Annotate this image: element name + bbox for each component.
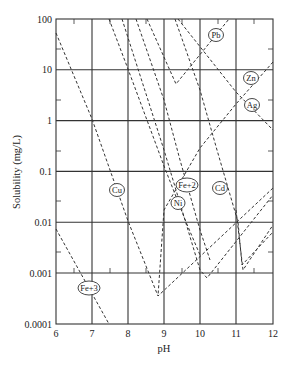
svg-text:100: 100: [37, 14, 52, 25]
label-cd: Cd: [213, 182, 228, 195]
label-pb: Pb: [209, 29, 224, 42]
svg-text:9: 9: [162, 328, 167, 339]
curve-ag: [178, 19, 273, 130]
svg-text:Ag: Ag: [247, 100, 258, 110]
svg-text:Cu: Cu: [112, 185, 123, 195]
label-zn: Zn: [244, 72, 259, 85]
svg-text:Ni: Ni: [174, 198, 183, 208]
svg-text:6: 6: [54, 328, 59, 339]
x-tick-labels: 6 7 8 9 10 11 12: [54, 328, 279, 339]
svg-text:8: 8: [126, 328, 131, 339]
grid: [56, 19, 273, 324]
svg-text:10: 10: [195, 328, 205, 339]
y-axis-title: Solubility (mg/L): [11, 135, 23, 209]
svg-text:1: 1: [47, 115, 52, 126]
curve-zn: [158, 62, 273, 296]
svg-text:Pb: Pb: [212, 30, 221, 40]
svg-text:10: 10: [42, 64, 52, 75]
svg-text:0.001: 0.001: [30, 268, 53, 279]
label-fe3: Fe+3: [78, 281, 100, 295]
svg-text:0.01: 0.01: [35, 217, 53, 228]
svg-text:Fe+2: Fe+2: [178, 180, 196, 190]
curve-steep-a: [136, 19, 210, 260]
curve-fe2: [109, 19, 200, 255]
curve-fe3: [56, 229, 109, 324]
label-cu: Cu: [110, 184, 125, 197]
svg-text:7: 7: [90, 328, 95, 339]
svg-text:Fe+3: Fe+3: [80, 283, 98, 293]
label-fe2: Fe+2: [176, 178, 198, 192]
svg-text:Cd: Cd: [215, 183, 226, 193]
label-ni: Ni: [171, 197, 185, 210]
svg-text:Zn: Zn: [246, 73, 256, 83]
solubility-chart: Pb Zn Ag Cu Fe+2 Ni Cd Fe+3 100 10 1 0.1…: [0, 0, 291, 365]
svg-text:0.1: 0.1: [40, 166, 53, 177]
y-tick-labels: 100 10 1 0.1 0.01 0.001 0.0001: [25, 14, 53, 330]
label-ag: Ag: [245, 99, 260, 112]
curve-cd: [175, 19, 273, 265]
svg-text:11: 11: [231, 328, 241, 339]
svg-text:0.0001: 0.0001: [25, 319, 53, 330]
x-axis-title: pH: [158, 343, 171, 354]
svg-text:12: 12: [268, 328, 278, 339]
